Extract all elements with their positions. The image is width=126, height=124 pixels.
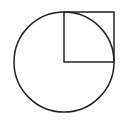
diagram-canvas (0, 0, 126, 124)
